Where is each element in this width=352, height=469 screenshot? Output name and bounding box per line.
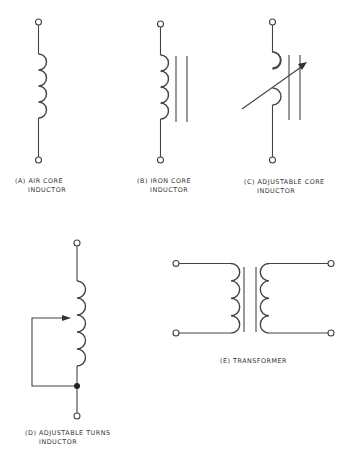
label-line-1: (C) ADJUSTABLE CORE: [244, 178, 325, 186]
air-core-inductor-symbol: [36, 19, 47, 163]
label-adjustable-core-inductor: (C) ADJUSTABLE CORE INDUCTOR: [244, 178, 325, 196]
label-adjustable-turns-inductor: (D) ADJUSTABLE TURNS INDUCTOR: [25, 429, 111, 447]
label-line-1: (B) IRON CORE: [137, 177, 191, 185]
label-line-1: (E) TRANSFORMER: [220, 357, 287, 365]
label-transformer: (E) TRANSFORMER: [220, 357, 287, 366]
transformer-symbol: [173, 261, 334, 337]
label-line-2: INDUCTOR: [15, 186, 66, 195]
label-line-1: (A) AIR CORE: [15, 177, 63, 185]
inductor-symbols-diagram: [0, 0, 352, 469]
label-line-1: (D) ADJUSTABLE TURNS: [25, 429, 111, 437]
label-iron-core-inductor: (B) IRON CORE INDUCTOR: [137, 177, 191, 195]
adjustable-core-inductor-symbol: [242, 19, 307, 163]
label-line-2: INDUCTOR: [137, 186, 191, 195]
label-line-2: INDUCTOR: [25, 438, 111, 447]
adjustable-turns-inductor-symbol: [32, 240, 86, 419]
label-line-2: INDUCTOR: [244, 187, 325, 196]
label-air-core-inductor: (A) AIR CORE INDUCTOR: [15, 177, 66, 195]
iron-core-inductor-symbol: [158, 21, 188, 163]
